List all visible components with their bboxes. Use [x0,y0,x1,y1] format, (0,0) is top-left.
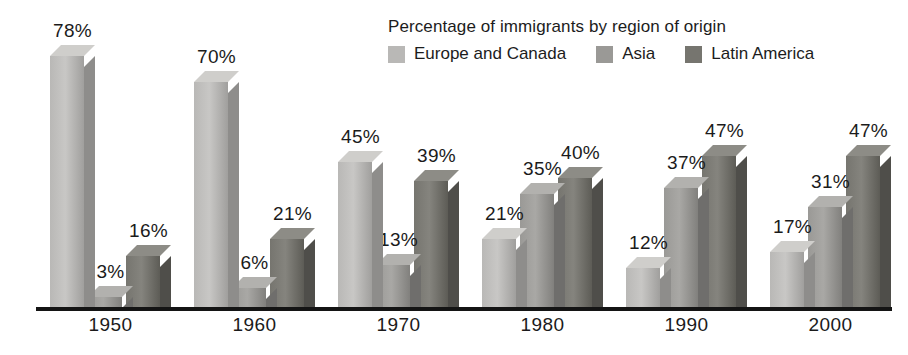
bar-value-label-1980-europe-and-canada: 21% [485,203,524,225]
bar-value-label-2000-asia: 31% [811,171,850,193]
bar-top-face [846,145,891,156]
bar-value-label-1950-europe-and-canada: 78% [53,20,92,42]
bar-front-face [770,252,804,307]
bar-1970-europe-and-canada: 45% [338,162,372,307]
plot-area: 78%3%16%70%6%21%45%13%39%21%35%40%12%37%… [0,0,908,355]
bar-side-face [410,265,421,307]
bar-group-1970: 45%13%39% [338,47,459,307]
x-axis-line [36,307,892,311]
bar-value-label-1990-europe-and-canada: 12% [629,232,668,254]
bar-value-label-1970-asia: 13% [379,229,418,251]
bar-value-label-1960-latin-america: 21% [273,203,312,225]
bar-front-face [50,56,84,307]
bar-value-label-2000-europe-and-canada: 17% [773,216,812,238]
bar-group-2000: 17%31%47% [770,47,891,307]
x-tick-1970: 1970 [338,314,459,336]
bar-value-label-1970-latin-america: 39% [417,145,456,167]
bar-top-face [338,151,383,162]
bar-side-face [304,239,315,307]
bar-side-face [804,252,815,307]
bar-top-face [194,71,239,82]
bar-front-face [626,268,660,307]
bar-front-face [482,239,516,307]
bar-top-face [270,228,315,239]
bar-value-label-1950-latin-america: 16% [129,220,168,242]
bar-2000-europe-and-canada: 17% [770,252,804,307]
bar-group-1950: 78%3%16% [50,47,171,307]
bar-side-face [84,56,95,307]
bar-value-label-1950-asia: 3% [96,261,124,283]
bar-1980-europe-and-canada: 21% [482,239,516,307]
bar-top-face [50,45,95,56]
bar-side-face [842,207,853,307]
bar-value-label-1970-europe-and-canada: 45% [341,126,380,148]
x-tick-1950: 1950 [50,314,171,336]
bar-side-face [592,178,603,307]
bar-top-face [414,170,459,181]
bar-top-face [558,167,603,178]
bar-side-face [554,194,565,307]
bar-value-label-1960-europe-and-canada: 70% [197,46,236,68]
bar-front-face [194,82,228,307]
bar-1960-europe-and-canada: 70% [194,82,228,307]
bar-side-face [372,162,383,307]
bar-side-face [880,156,891,307]
bar-value-label-1980-asia: 35% [523,158,562,180]
bar-side-face [698,188,709,307]
bar-value-label-2000-latin-america: 47% [849,120,888,142]
bar-group-1990: 12%37%47% [626,47,747,307]
bar-group-1960: 70%6%21% [194,47,315,307]
bar-value-label-1960-asia: 6% [240,252,268,274]
bar-side-face [448,181,459,307]
bar-1990-europe-and-canada: 12% [626,268,660,307]
x-tick-1980: 1980 [482,314,603,336]
bar-1950-europe-and-canada: 78% [50,56,84,307]
bar-value-label-1990-asia: 37% [667,152,706,174]
bar-side-face [228,82,239,307]
bar-value-label-1990-latin-america: 47% [705,120,744,142]
bar-front-face [338,162,372,307]
bar-side-face [516,239,527,307]
bar-group-1980: 21%35%40% [482,47,603,307]
bar-side-face [736,156,747,307]
x-tick-2000: 2000 [770,314,891,336]
bar-value-label-1980-latin-america: 40% [561,142,600,164]
bar-chart: Percentage of immigrants by region of or… [0,0,908,355]
bar-side-face [160,256,171,307]
bar-side-face [660,268,671,307]
x-tick-1990: 1990 [626,314,747,336]
x-tick-1960: 1960 [194,314,315,336]
bar-top-face [126,245,171,256]
bar-top-face [702,145,747,156]
